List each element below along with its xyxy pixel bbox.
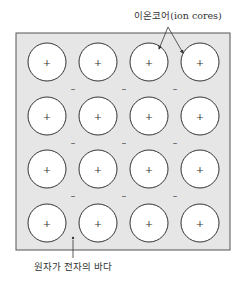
ion-core: + — [130, 150, 168, 188]
ion-core: + — [181, 43, 219, 81]
ion-core: + — [181, 150, 219, 188]
positive-charge-symbol: + — [196, 164, 204, 175]
positive-charge-symbol: + — [145, 57, 153, 68]
positive-charge-symbol: + — [43, 164, 51, 175]
positive-charge-symbol: + — [145, 111, 153, 122]
positive-charge-symbol: + — [145, 218, 153, 229]
ion-core: + — [28, 43, 66, 81]
ion-core: + — [79, 204, 117, 242]
positive-charge-symbol: + — [94, 111, 102, 122]
ion-core: + — [181, 204, 219, 242]
positive-charge-symbol: + — [43, 218, 51, 229]
electron-symbol: – — [122, 191, 127, 201]
ion-core: + — [130, 204, 168, 242]
electron-symbol: – — [122, 138, 127, 148]
ion-core: + — [79, 43, 117, 81]
ion-cores-label: 이온코어(ion cores) — [134, 10, 221, 21]
ion-core: + — [130, 43, 168, 81]
ion-core: + — [79, 150, 117, 188]
positive-charge-symbol: + — [94, 164, 102, 175]
ion-core: + — [79, 97, 117, 135]
electron-symbol: – — [173, 138, 178, 148]
ion-core: + — [28, 97, 66, 135]
positive-charge-symbol: + — [196, 218, 204, 229]
electron-symbol: – — [173, 191, 178, 201]
electron-symbol: – — [71, 138, 76, 148]
electron-symbol: – — [71, 191, 76, 201]
positive-charge-symbol: + — [145, 164, 153, 175]
electron-symbol: – — [71, 84, 76, 94]
metallic-bonding-diagram: 이온코어(ion cores) ++++++++++++++++ –––––––… — [0, 0, 243, 282]
electron-symbol: – — [173, 84, 178, 94]
electron-sea-pointer-dot — [72, 237, 74, 239]
positive-charge-symbol: + — [94, 57, 102, 68]
electron-sea-label: 원자가 전자의 바다 — [34, 261, 112, 272]
ion-core: + — [130, 97, 168, 135]
electron-symbol: – — [122, 84, 127, 94]
positive-charge-symbol: + — [196, 57, 204, 68]
ion-core: + — [28, 150, 66, 188]
ion-core: + — [28, 204, 66, 242]
positive-charge-symbol: + — [94, 218, 102, 229]
positive-charge-symbol: + — [196, 111, 204, 122]
positive-charge-symbol: + — [43, 57, 51, 68]
ion-core: + — [181, 97, 219, 135]
positive-charge-symbol: + — [43, 111, 51, 122]
